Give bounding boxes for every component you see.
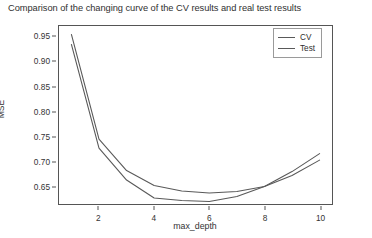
y-tick-mark — [52, 36, 56, 37]
x-tick-mark — [98, 206, 99, 210]
y-tick-mark — [52, 187, 56, 188]
legend-line-icon — [278, 37, 295, 39]
y-tick-label: 0.75 — [34, 132, 50, 142]
x-tick-mark — [264, 206, 265, 210]
x-tick-label: 10 — [316, 213, 325, 223]
x-tick-label: 8 — [263, 213, 268, 223]
legend-label: Test — [300, 43, 315, 54]
y-tick-label: 0.80 — [34, 107, 50, 117]
y-tick-label: 0.85 — [34, 82, 50, 92]
legend-item[interactable]: Test — [278, 43, 315, 54]
y-tick-mark — [52, 111, 56, 112]
x-tick-mark — [320, 206, 321, 210]
y-tick-mark — [52, 86, 56, 87]
x-tick-mark — [209, 206, 210, 210]
legend-label: CV — [300, 32, 311, 43]
x-tick-mark — [153, 206, 154, 210]
series-line-cv — [71, 34, 319, 193]
y-tick-label: 0.65 — [34, 182, 50, 192]
y-axis-label: MSE — [0, 100, 6, 119]
y-axis-tick-labels: 0.650.700.750.800.850.900.95 — [0, 25, 56, 205]
chart-figure: Comparison of the changing curve of the … — [0, 0, 372, 238]
legend-item[interactable]: CV — [278, 32, 315, 43]
y-tick-mark — [52, 61, 56, 62]
y-tick-label: 0.90 — [34, 56, 50, 66]
y-tick-label: 0.95 — [34, 31, 50, 41]
y-tick-mark — [52, 136, 56, 137]
x-tick-label: 4 — [152, 213, 157, 223]
series-line-test — [71, 44, 319, 201]
legend-line-icon — [278, 48, 295, 50]
x-axis-label: max_depth — [173, 221, 217, 231]
chart-title: Comparison of the changing curve of the … — [8, 3, 301, 13]
chart-legend: CVTest — [273, 28, 322, 58]
x-tick-label: 2 — [96, 213, 101, 223]
y-tick-mark — [52, 162, 56, 163]
y-tick-label: 0.70 — [34, 157, 50, 167]
